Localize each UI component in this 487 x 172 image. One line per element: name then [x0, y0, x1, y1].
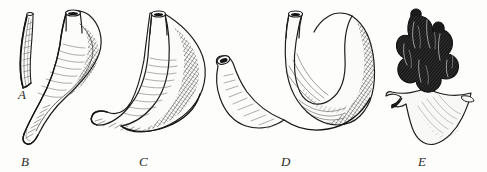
plate-illustration [0, 0, 487, 172]
figure-label-c: C [139, 155, 148, 168]
figure-c-shape [91, 11, 205, 132]
figure-label-a: A [18, 88, 26, 101]
figure-b-shape [23, 10, 101, 144]
specimen-plate: A B C D E [0, 0, 487, 172]
figure-label-b: B [21, 155, 29, 168]
figure-label-e: E [418, 155, 426, 168]
figure-label-d: D [281, 155, 291, 168]
figure-e-shape [386, 9, 474, 145]
figure-d-shape [216, 11, 374, 130]
figure-a-shape [20, 13, 33, 89]
